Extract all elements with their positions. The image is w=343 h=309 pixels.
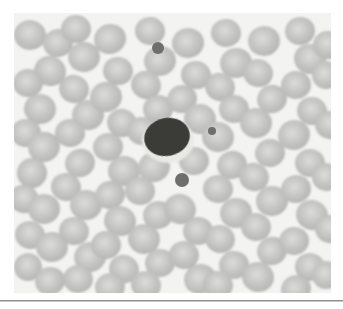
footer-band [0,302,343,309]
cell-field-svg [14,13,331,293]
micrograph-page [0,0,343,309]
blood-smear-micrograph [14,13,331,293]
cell-layer [14,13,331,293]
platelet [208,127,216,135]
platelet [152,42,164,54]
platelet [175,173,189,187]
